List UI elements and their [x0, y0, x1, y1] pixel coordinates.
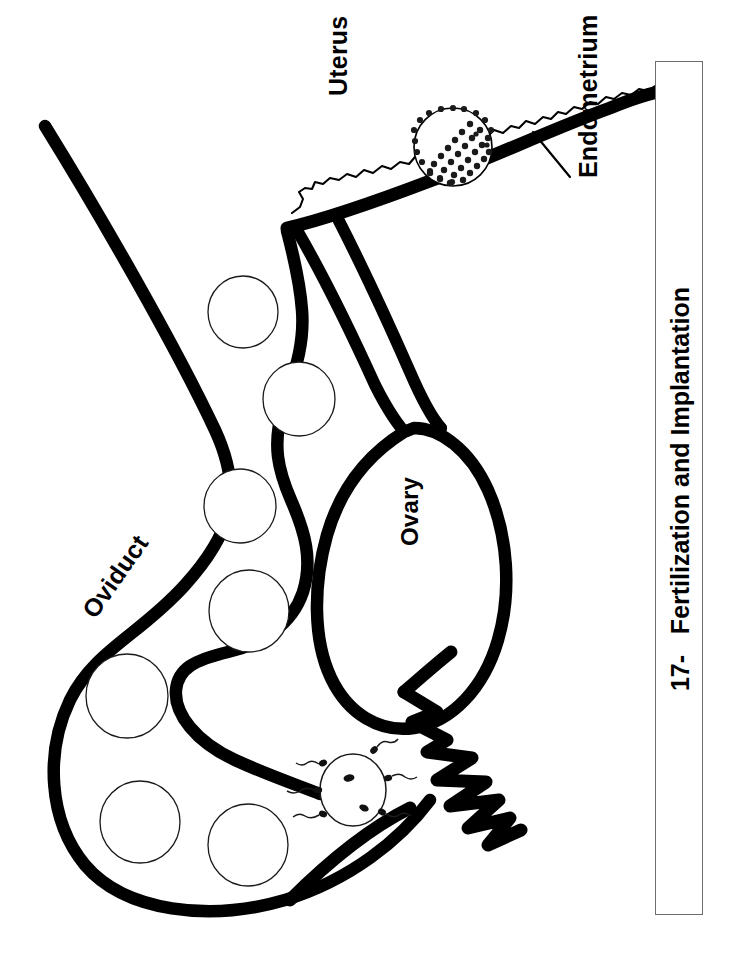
label-ovary: Ovary — [398, 477, 422, 546]
sperm — [296, 758, 328, 767]
embryo-circle — [86, 654, 168, 738]
ovum-outline — [320, 754, 386, 826]
fimbriae-zigzag — [404, 692, 521, 845]
sperm — [369, 739, 398, 755]
label-uterus: Uterus — [326, 16, 351, 96]
uterine-horn-right-wall — [338, 219, 441, 428]
endometrium-leader-line — [533, 132, 570, 177]
blastocyst-group — [411, 105, 494, 186]
embryo-circle — [204, 469, 276, 543]
figure-caption: 17- Fertilization and Implantation — [668, 89, 693, 889]
embryo-circle — [209, 570, 289, 652]
caption-box: 17- Fertilization and Implantation — [655, 61, 703, 915]
embryo-circle — [208, 804, 288, 886]
embryo-circle — [263, 362, 335, 436]
embryo-circle — [208, 276, 278, 348]
figure-root: Uterus Endometrium Ovary Oviduct 17- Fer… — [0, 0, 741, 968]
embryo-circle — [100, 781, 180, 863]
label-endometrium: Endometrium — [576, 15, 601, 178]
anatomy-diagram — [0, 0, 741, 968]
sperm — [383, 774, 417, 782]
sperm — [293, 810, 328, 819]
